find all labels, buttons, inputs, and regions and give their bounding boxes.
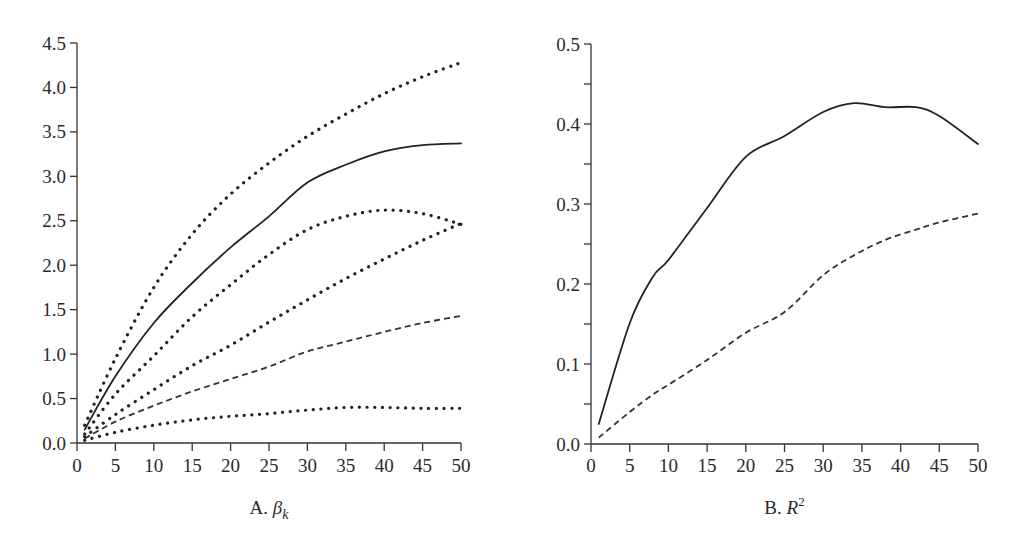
x-tick-label: 30 bbox=[298, 455, 317, 476]
y-tick-label: 0.0 bbox=[42, 433, 66, 454]
y-tick-label: 1.5 bbox=[42, 299, 66, 320]
series-line-dashed bbox=[599, 214, 978, 438]
series-line-dotted bbox=[85, 63, 461, 426]
y-tick-label: 0.1 bbox=[556, 354, 580, 375]
x-tick-label: 35 bbox=[852, 455, 871, 476]
x-tick-label: 5 bbox=[111, 455, 121, 476]
x-tick-label: 0 bbox=[586, 455, 596, 476]
y-tick-label: 2.0 bbox=[42, 255, 66, 276]
y-tick-label: 0.2 bbox=[556, 274, 580, 295]
x-tick-label: 45 bbox=[930, 455, 949, 476]
y-tick-label: 0.5 bbox=[42, 388, 66, 409]
x-tick-label: 25 bbox=[260, 455, 279, 476]
series-line-solid bbox=[85, 143, 461, 429]
x-tick-label: 20 bbox=[221, 455, 240, 476]
y-tick-label: 1.0 bbox=[42, 344, 66, 365]
panel-a-beta-chart: 0.00.51.01.52.02.53.03.54.04.50510152025… bbox=[42, 33, 470, 523]
x-tick-label: 5 bbox=[625, 455, 635, 476]
y-tick-label: 3.5 bbox=[42, 121, 66, 142]
y-tick-label: 0.5 bbox=[556, 34, 580, 55]
series-line-dotted bbox=[85, 210, 461, 434]
x-tick-label: 25 bbox=[775, 455, 794, 476]
x-tick-label: 50 bbox=[452, 455, 471, 476]
panel-label: B. R2 bbox=[764, 494, 804, 518]
x-tick-label: 15 bbox=[183, 455, 202, 476]
x-tick-label: 40 bbox=[375, 455, 394, 476]
y-tick-label: 3.0 bbox=[42, 166, 66, 187]
y-tick-label: 0.4 bbox=[556, 114, 580, 135]
y-tick-label: 0.0 bbox=[556, 434, 580, 455]
figure: 0.00.51.01.52.02.53.03.54.04.50510152025… bbox=[0, 0, 1019, 546]
x-tick-label: 0 bbox=[72, 455, 82, 476]
x-tick-label: 20 bbox=[736, 455, 755, 476]
y-tick-label: 4.5 bbox=[42, 33, 66, 54]
y-tick-label: 4.0 bbox=[42, 77, 66, 98]
x-tick-label: 45 bbox=[413, 455, 432, 476]
x-tick-label: 35 bbox=[336, 455, 355, 476]
x-tick-label: 30 bbox=[814, 455, 833, 476]
series-line-solid bbox=[599, 103, 978, 424]
series-line-dotted bbox=[85, 223, 461, 436]
series-line-dashed bbox=[85, 316, 461, 439]
x-tick-label: 50 bbox=[969, 455, 988, 476]
x-tick-label: 10 bbox=[144, 455, 163, 476]
panel-label: A. βk bbox=[250, 497, 290, 522]
chart-canvas: 0.00.51.01.52.02.53.03.54.04.50510152025… bbox=[0, 0, 1019, 546]
y-tick-label: 0.3 bbox=[556, 194, 580, 215]
panel-b-r-squared-chart: 0.00.10.20.30.40.505101520253035404550B.… bbox=[556, 34, 987, 519]
x-tick-label: 40 bbox=[891, 455, 910, 476]
x-tick-label: 15 bbox=[698, 455, 717, 476]
y-tick-label: 2.5 bbox=[42, 210, 66, 231]
x-tick-label: 10 bbox=[659, 455, 678, 476]
series-line-dotted bbox=[85, 407, 461, 440]
